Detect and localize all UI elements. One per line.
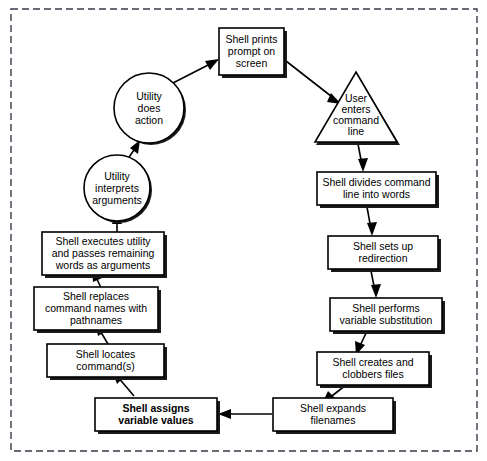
- node-label-line: and passes remaining: [52, 247, 155, 259]
- node-label-line: Utility: [136, 90, 162, 102]
- node-label-line: Shell divides command: [323, 176, 431, 188]
- edge-shell-divides-to-shell-sets-up-redirection: [367, 207, 377, 236]
- node-label-line: arguments: [92, 194, 142, 206]
- node-shell-locates-commands[interactable]: Shell locates command(s): [47, 344, 167, 380]
- node-label-line: interprets: [95, 182, 139, 194]
- node-shell-executes-utility[interactable]: Shell executes utility and passes remain…: [42, 232, 167, 278]
- node-label-line: Shell executes utility: [55, 235, 151, 247]
- node-label-line: Shell performs: [352, 302, 420, 314]
- node-label-line: variable values: [118, 414, 193, 426]
- node-label-line: Shell locates: [76, 348, 136, 360]
- node-label-line: Shell replaces: [63, 290, 129, 302]
- node-label-line: clobbers files: [342, 368, 403, 380]
- node-label-line: Utility: [104, 170, 130, 182]
- node-shell-expands-filenames[interactable]: Shell expands filenames: [273, 398, 396, 434]
- flowchart-diagram: Shell prints prompt on screen User enter…: [0, 0, 487, 461]
- node-shell-divides-command-line[interactable]: Shell divides command line into words: [317, 172, 439, 208]
- node-shell-sets-up-redirection[interactable]: Shell sets up redirection: [328, 236, 441, 272]
- edge-shell-prints-prompt-to-user-enters-command-line: [286, 61, 341, 104]
- node-label-line: action: [135, 114, 163, 126]
- node-label-line: Shell creates and: [332, 356, 413, 368]
- node-shell-replaces-command-names[interactable]: Shell replaces command names with pathna…: [34, 287, 161, 333]
- node-label-line: Shell sets up: [353, 240, 413, 252]
- node-label-line: does: [138, 102, 161, 114]
- node-label-line: command(s): [76, 360, 134, 372]
- node-label-line: pathnames: [70, 314, 122, 326]
- node-label-line: line: [348, 125, 365, 137]
- node-shell-prints-prompt[interactable]: Shell prints prompt on screen: [219, 28, 287, 78]
- node-shell-performs-variable-substitution[interactable]: Shell performs variable substitution: [330, 298, 445, 334]
- node-user-enters-command-line[interactable]: User enters command line: [315, 72, 400, 145]
- node-label-line: Shell prints: [226, 33, 278, 45]
- edge-user-enters-command-line-to-shell-divides: [358, 144, 368, 172]
- node-utility-interprets-arguments[interactable]: Utility interprets arguments: [84, 155, 152, 223]
- edge-shell-expands-filenames-to-shell-assigns-variable-values: [218, 409, 272, 419]
- node-label-line: prompt on: [228, 45, 275, 57]
- node-label-line: Shell assigns: [122, 402, 189, 414]
- edge-shell-sets-up-to-shell-performs-substitution: [371, 271, 381, 298]
- node-label-line: words as arguments: [55, 259, 151, 271]
- node-shell-creates-clobbers-files[interactable]: Shell creates and clobbers files: [317, 352, 432, 388]
- node-label-line: screen: [236, 57, 268, 69]
- node-shell-assigns-variable-values[interactable]: Shell assigns variable values: [95, 398, 220, 434]
- edge-utility-does-action-to-shell-prints-prompt: [171, 59, 219, 84]
- node-label-line: Shell expands: [300, 402, 366, 414]
- node-label-line: command names with: [45, 302, 147, 314]
- node-utility-does-action[interactable]: Utility does action: [114, 73, 186, 145]
- node-label-line: line into words: [343, 188, 410, 200]
- node-label-line: filenames: [311, 414, 356, 426]
- node-label-line: variable substitution: [340, 314, 433, 326]
- node-label-line: redirection: [358, 252, 407, 264]
